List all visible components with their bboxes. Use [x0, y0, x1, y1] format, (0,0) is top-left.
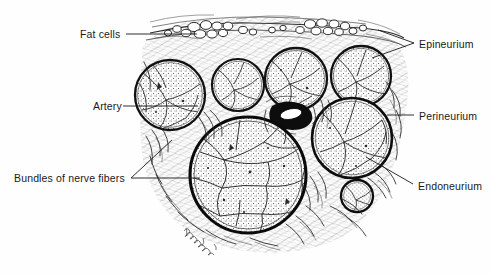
fascicle-upper-left [135, 60, 205, 130]
fascicle-small [341, 180, 374, 212]
label-artery: Artery [93, 100, 122, 112]
fascicle-large-central [190, 117, 306, 233]
fascicle-right-lower [312, 98, 392, 178]
label-endoneurium: Endoneurium [418, 180, 482, 192]
fascicle-upper-center [265, 48, 327, 110]
label-epineurium: Epineurium [419, 38, 474, 50]
label-fat-cells: Fat cells [80, 28, 120, 40]
label-perineurium: Perineurium [419, 110, 477, 122]
fascicle-upper-right [331, 46, 391, 106]
fascicle-upper-middle [212, 59, 264, 111]
label-bundles-of-nerve-fibers: Bundles of nerve fibers [14, 172, 125, 184]
